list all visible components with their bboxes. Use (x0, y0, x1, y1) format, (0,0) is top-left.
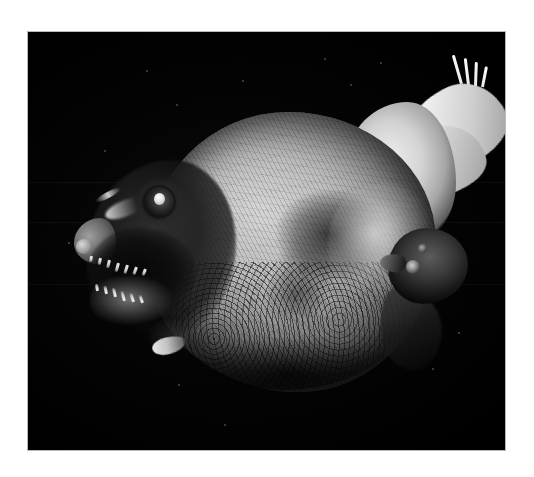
eye-catchlight (154, 193, 165, 205)
attached-fish-eye (406, 260, 420, 274)
attached-fish-eye-secondary (418, 244, 427, 253)
photograph-frame (27, 31, 506, 451)
caudal-spike (474, 62, 477, 86)
fish-specimen (28, 32, 505, 450)
photograph-canvas (28, 32, 505, 450)
caudal-spike (464, 58, 470, 85)
caudal-spike (481, 66, 487, 87)
page-root (0, 0, 534, 477)
snout-tip (76, 239, 92, 254)
caudal-spike (452, 55, 463, 85)
